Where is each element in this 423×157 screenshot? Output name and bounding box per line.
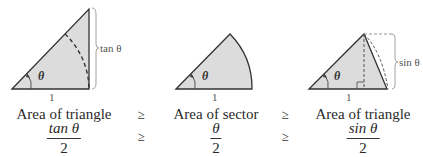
- base-label-3: 1: [346, 92, 352, 103]
- base-label-2: 1: [212, 92, 218, 103]
- diagram-figures: [0, 0, 423, 100]
- large-triangle-figure: [12, 8, 99, 89]
- formula-theta-over-2: θ 2: [210, 121, 221, 156]
- formula-denominator: 2: [210, 139, 221, 156]
- formula-denominator: 2: [47, 139, 81, 156]
- sector-figure: [176, 34, 252, 89]
- relation-ge-2: ≥: [281, 108, 288, 121]
- base-label-1: 1: [49, 92, 55, 103]
- theta-label-3: θ: [334, 70, 340, 82]
- small-triangle-figure: [309, 34, 398, 89]
- relation-ge-1: ≥: [137, 108, 144, 121]
- formula-numerator: sin θ: [347, 121, 380, 139]
- relation-ge-formula-2: ≥: [281, 130, 288, 143]
- tan-theta-label: tan θ: [100, 43, 121, 54]
- formula-denominator: 2: [347, 139, 380, 156]
- theta-label-1: θ: [38, 70, 44, 82]
- formula-sin-over-2: sin θ 2: [347, 121, 380, 156]
- formula-numerator: θ: [210, 121, 221, 139]
- relation-ge-formula-1: ≥: [137, 130, 144, 143]
- formula-tan-over-2: tan θ 2: [47, 121, 81, 156]
- theta-label-2: θ: [202, 70, 208, 82]
- sin-theta-label: sin θ: [399, 57, 420, 68]
- formula-numerator: tan θ: [47, 121, 81, 139]
